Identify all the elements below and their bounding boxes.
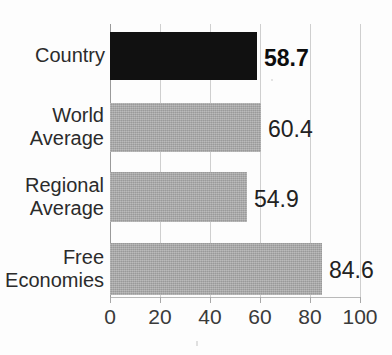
value-label-world-average: 60.4 (268, 116, 313, 143)
category-label-world-average-line2: Average (0, 127, 104, 150)
x-tick-80 (310, 297, 311, 303)
x-tick-100 (360, 297, 361, 303)
bar-chart: Country World Average Regional Average F… (0, 0, 392, 355)
category-label-regional-average-line1: Regional (0, 174, 104, 197)
category-label-free-economies-line2: Economies (0, 269, 104, 292)
category-label-world-average: World Average (0, 104, 105, 150)
x-tick-40 (210, 297, 211, 303)
x-axis-line (110, 297, 361, 298)
category-label-world-average-line1: World (0, 104, 104, 127)
x-tick-60 (260, 297, 261, 303)
scan-artifact (271, 79, 273, 81)
category-label-country-line1: Country (1, 44, 105, 67)
value-label-free-economies: 84.6 (329, 257, 374, 284)
bar-country (110, 32, 257, 80)
bar-world-average (110, 103, 261, 152)
value-label-regional-average: 54.9 (254, 186, 299, 213)
category-label-free-economies-line1: Free (0, 246, 104, 269)
x-tick-20 (160, 297, 161, 303)
plot-area: Country World Average Regional Average F… (0, 0, 392, 355)
scan-artifact (196, 341, 198, 346)
category-label-regional-average-line2: Average (0, 197, 104, 220)
bar-regional-average (110, 172, 247, 222)
value-label-country: 58.7 (264, 45, 309, 72)
x-tick-label-100: 100 (330, 305, 390, 329)
bar-free-economies (110, 243, 322, 295)
category-label-regional-average: Regional Average (0, 174, 105, 220)
x-tick-0 (110, 297, 111, 303)
category-label-free-economies: Free Economies (0, 246, 105, 292)
